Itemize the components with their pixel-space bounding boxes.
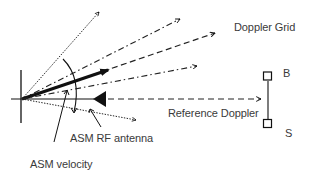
- baseline-b-label: B: [283, 67, 290, 79]
- asm-rf-antenna-label: ASM RF antenna: [70, 132, 153, 144]
- doppler-grid-dashdot-arrow-lower: [22, 66, 197, 99]
- asm-rf-antenna-leader-line: [90, 109, 101, 127]
- reference-doppler-label: Reference Doppler: [168, 107, 259, 119]
- asm-velocity-label: ASM velocity: [30, 158, 92, 170]
- doppler-grid-label: Doppler Grid: [234, 21, 295, 33]
- baseline-point-b-box: [264, 72, 272, 80]
- asm-velocity-thick-arrow: [22, 70, 108, 99]
- baseline-point-s-box: [264, 120, 272, 128]
- doppler-grid-dashdot-arrow-upper: [22, 19, 180, 99]
- baseline-s-label: S: [285, 127, 292, 139]
- doppler-grid-dotted-arrow-bottom: [22, 99, 136, 120]
- rf-antenna-triangle-icon: [93, 91, 106, 107]
